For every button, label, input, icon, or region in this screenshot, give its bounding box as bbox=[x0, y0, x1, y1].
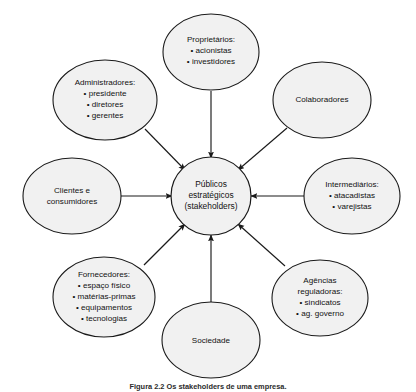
node-clientes-e-consumidores[interactable]: Clientes e consumidores bbox=[23, 158, 121, 234]
node-intermediarios-line-2: • varejistas bbox=[332, 202, 371, 211]
node-administradores-line-1: • presidente bbox=[84, 89, 127, 98]
node-fornecedores-line-1: • espaço físico bbox=[78, 281, 131, 290]
node-agencias-line-0: Agências bbox=[303, 276, 336, 285]
stakeholders-diagram: Proprietários: • acionistas • investidor… bbox=[0, 0, 416, 392]
node-clientes-line-0: Clientes e bbox=[54, 186, 90, 195]
node-agencias-reguladoras[interactable]: Agências reguladoras: • sindicatos • ag.… bbox=[272, 260, 368, 336]
node-intermediarios-line-0: Intermediários: bbox=[325, 180, 379, 189]
node-intermediarios[interactable]: Intermediários: • atacadistas • varejist… bbox=[304, 158, 400, 234]
node-publicos-estrategicos[interactable]: Públicos estratégicos (stakeholders) bbox=[171, 157, 251, 235]
node-proprietarios-line-1: • acionistas bbox=[190, 46, 231, 55]
node-clientes-line-1: consumidores bbox=[47, 197, 97, 206]
node-proprietarios-line-0: Proprietários: bbox=[187, 35, 235, 44]
arrow-agencias-to-center bbox=[238, 224, 285, 266]
arrow-administradores-to-center bbox=[145, 129, 185, 170]
arrow-colaboradores-to-center bbox=[238, 128, 287, 170]
stakeholders-figure: Proprietários: • acionistas • investidor… bbox=[0, 0, 416, 392]
figure-caption-bottom: Figura 2.2 Os stakeholders de uma empres… bbox=[0, 381, 416, 392]
node-sociedade[interactable]: Sociedade bbox=[162, 302, 260, 378]
center-node-line-2: (stakeholders) bbox=[184, 201, 237, 211]
center-node-line-0: Públicos bbox=[195, 179, 227, 189]
node-agencias-line-2: • sindicatos bbox=[299, 298, 340, 307]
node-fornecedores-line-4: • tecnologias bbox=[81, 314, 127, 323]
node-proprietarios[interactable]: Proprietários: • acionistas • investidor… bbox=[163, 14, 259, 90]
node-administradores-line-0: Administradores: bbox=[75, 78, 136, 87]
node-administradores-line-2: • diretores bbox=[87, 100, 124, 109]
node-fornecedores-line-3: • equipamentos bbox=[76, 303, 132, 312]
node-intermediarios-line-1: • atacadistas bbox=[329, 191, 375, 200]
node-colaboradores[interactable]: Colaboradores bbox=[273, 62, 371, 138]
node-fornecedores-line-2: • matérias-primas bbox=[72, 292, 135, 301]
node-administradores[interactable]: Administradores: • presidente • diretore… bbox=[53, 60, 157, 140]
node-clientes-shape bbox=[23, 158, 121, 234]
center-node-line-1: estratégicos bbox=[188, 190, 233, 200]
node-sociedade-line-0: Sociedade bbox=[192, 336, 231, 345]
node-colaboradores-line-0: Colaboradores bbox=[295, 95, 348, 104]
node-agencias-line-3: • ag. governo bbox=[296, 309, 344, 318]
node-agencias-line-1: reguladoras: bbox=[298, 287, 343, 296]
node-proprietarios-line-2: • investidores bbox=[187, 57, 235, 66]
node-fornecedores-line-0: Fornecedores: bbox=[78, 270, 130, 279]
arrow-fornecedores-to-center bbox=[144, 224, 185, 265]
node-administradores-line-3: • gerentes bbox=[87, 111, 124, 120]
node-fornecedores[interactable]: Fornecedores: • espaço físico • matérias… bbox=[53, 257, 155, 337]
